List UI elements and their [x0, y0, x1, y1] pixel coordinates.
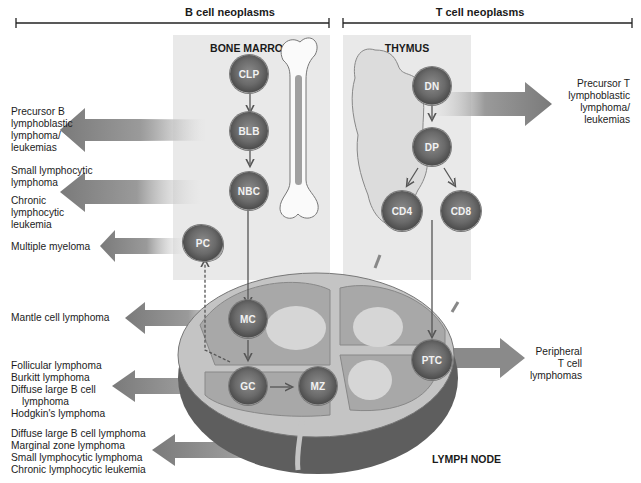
cell-mz: MZ [299, 367, 337, 405]
label-chronic-lymphocytic: Chronic lymphocytic leukemia [11, 195, 64, 231]
label-line: lymphoma [11, 396, 105, 408]
cell-mz-label: MZ [311, 381, 326, 392]
label-precursor-b: Precursor B lymphoblastic lymphoma/ leuk… [11, 106, 73, 154]
lymph-node-title: LYMPH NODE [432, 453, 501, 465]
cell-ptc: PTC [412, 340, 452, 380]
cell-pc: PC [183, 225, 223, 261]
cell-cd4: CD4 [382, 191, 422, 231]
cell-nbc: NBC [230, 172, 268, 210]
cell-gc: GC [229, 367, 267, 405]
label-line: Diffuse large B cell [11, 384, 105, 396]
label-line: lymphoma/ [11, 130, 73, 142]
label-line: Follicular lymphoma [11, 360, 105, 372]
cell-blb: BLB [230, 112, 268, 150]
cell-dn: DN [413, 67, 451, 105]
cell-nbc-label: NBC [238, 186, 260, 197]
label-line: Multiple myeloma [11, 241, 90, 253]
label-line: Small lymphocytic lymphoma [11, 452, 146, 464]
label-line: Precursor B [11, 106, 73, 118]
label-line: lymphoblastic [540, 90, 630, 102]
label-line: Hodgkin's lymphoma [11, 408, 105, 420]
cell-ptc-label: PTC [422, 355, 443, 366]
cell-pc-label: PC [196, 238, 210, 249]
label-line: lymphoblastic [11, 118, 73, 130]
bone-illustration [280, 38, 318, 218]
label-line: leukemias [540, 114, 630, 126]
cell-cd8-label: CD8 [451, 206, 472, 217]
cell-blb-label: BLB [238, 126, 259, 137]
label-marginal-zone: Diffuse large B cell lymphoma Marginal z… [11, 428, 146, 476]
cell-cd4-label: CD4 [392, 206, 413, 217]
label-mantle-cell: Mantle cell lymphoma [11, 312, 110, 324]
label-line: Mantle cell lymphoma [11, 312, 110, 324]
label-line: Marginal zone lymphoma [11, 440, 146, 452]
label-line: T cell [520, 358, 582, 370]
label-small-lymphocytic: Small lymphocytic lymphoma [11, 165, 93, 189]
label-line: leukemia [11, 219, 64, 231]
label-line: Peripheral [520, 346, 582, 358]
label-line: Small lymphocytic [11, 165, 93, 177]
cell-dp-label: DP [425, 142, 439, 153]
cell-dp: DP [413, 128, 451, 166]
label-line: lymphomas [520, 370, 582, 382]
cell-cd8: CD8 [441, 191, 481, 231]
label-line: leukemias [11, 142, 73, 154]
cell-mc: MC [229, 300, 267, 338]
label-precursor-t: Precursor T lymphoblastic lymphoma/ leuk… [540, 78, 630, 126]
cell-dn-label: DN [425, 81, 440, 92]
cell-clp-label: CLP [239, 69, 260, 80]
label-line: Precursor T [540, 78, 630, 90]
label-germinal-center: Follicular lymphoma Burkitt lymphoma Dif… [11, 360, 105, 420]
label-line: Burkitt lymphoma [11, 372, 105, 384]
cell-clp: CLP [230, 55, 268, 93]
label-multiple-myeloma: Multiple myeloma [11, 241, 90, 253]
label-line: lymphoma [11, 177, 93, 189]
label-line: lymphocytic [11, 207, 64, 219]
cell-mc-label: MC [240, 314, 256, 325]
label-line: Diffuse large B cell lymphoma [11, 428, 146, 440]
label-line: Chronic lymphocytic leukemia [11, 464, 146, 476]
label-line: Chronic [11, 195, 64, 207]
label-peripheral-t: Peripheral T cell lymphomas [520, 346, 582, 382]
arrow-multiple-myeloma [100, 230, 185, 262]
cell-gc-label: GC [240, 381, 255, 392]
label-line: lymphoma/ [540, 102, 630, 114]
